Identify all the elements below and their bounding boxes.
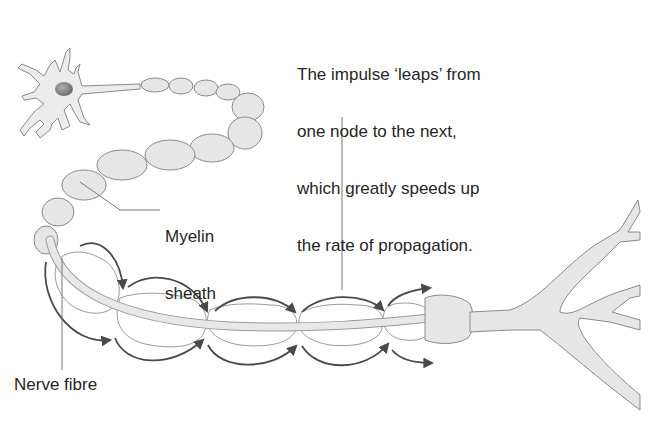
myelin-label-line-1: Myelin xyxy=(165,227,216,246)
nucleus xyxy=(55,82,73,96)
myelin-label-line-2: sheath xyxy=(165,284,216,303)
impulse-callout: The impulse ‘leaps’ from one node to the… xyxy=(297,27,481,274)
impulse-text-line-1: The impulse ‘leaps’ from xyxy=(297,65,481,84)
nerve-fibre-label: Nerve fibre xyxy=(14,375,97,394)
impulse-text-line-2: one node to the next, xyxy=(297,122,481,141)
cell-body xyxy=(18,48,140,138)
impulse-text-line-4: the rate of propagation. xyxy=(297,236,481,255)
myelin-sheath-label: Myelin sheath xyxy=(165,189,216,322)
impulse-text-line-3: which greatly speeds up xyxy=(297,179,481,198)
